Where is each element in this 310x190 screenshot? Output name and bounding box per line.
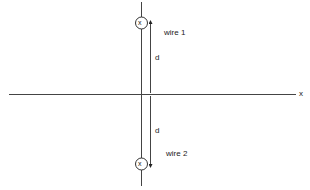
diagram-canvas — [0, 0, 310, 190]
distance-label-upper: d — [155, 54, 159, 62]
wire-1-label: wire 1 — [164, 29, 185, 37]
distance-label-lower: d — [155, 127, 159, 135]
wire-2-x-mark: x — [138, 160, 142, 167]
x-axis-label: x — [299, 90, 303, 98]
wire-1-x-mark: x — [138, 19, 142, 26]
wire-2-label: wire 2 — [166, 150, 187, 158]
